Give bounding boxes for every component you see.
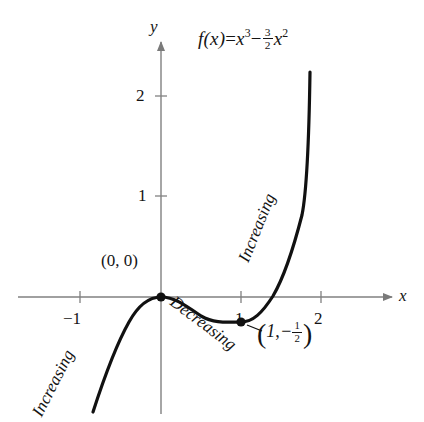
equation-equals: = [225,28,236,49]
function-curve [93,72,310,412]
y-tick-label-1: 1 [138,187,147,204]
equation-fx: f(x) [198,28,225,49]
equation-term2-exponent: 2 [282,27,288,40]
minimum-close-paren: ) [303,318,312,349]
minimum-y-fraction: 12 [292,320,301,344]
x-tick-label-minus1: −1 [63,310,81,327]
y-axis-label: y [150,18,158,35]
function-equation: f(x)=x3−32x2 [198,26,288,52]
y-tick-label-2: 2 [136,87,145,104]
equation-term2-base: x [274,28,283,49]
minimum-fraction-denominator: 2 [292,332,301,345]
minimum-comma: , [275,321,280,341]
minimum-open-paren: ( [257,318,266,349]
equation-fraction-numerator: 3 [263,26,273,38]
equation-minus: − [251,28,262,49]
x-tick-label-1: 1 [235,310,244,327]
x-axis-label: x [399,287,407,304]
equation-term1-base: x [236,28,245,49]
minimum-sign: − [281,321,291,341]
function-graph-figure: f(x)=x3−32x2 x y 2 1 −1 1 2 (0, 0) (1, −… [0,0,424,422]
x-tick-label-2: 2 [314,310,323,327]
point-origin-marker [156,292,165,301]
origin-point-label: (0, 0) [101,252,138,269]
equation-coefficient-fraction: 32 [263,26,273,52]
minimum-point-label: (1, −12) [257,320,312,344]
minimum-fraction-numerator: 1 [292,320,301,332]
minimum-x-value: 1 [266,321,275,341]
equation-fraction-denominator: 2 [263,38,273,51]
